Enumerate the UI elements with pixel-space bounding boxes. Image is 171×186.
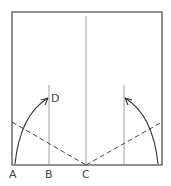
paper-square (12, 12, 162, 165)
right-arc-arrow (125, 98, 158, 164)
label-b: B (45, 168, 53, 181)
label-c: C (82, 168, 90, 181)
origami-diagram: A B C D (0, 0, 171, 186)
label-a: A (9, 168, 17, 181)
label-d: D (51, 92, 59, 105)
left-arc-arrow (15, 98, 48, 164)
